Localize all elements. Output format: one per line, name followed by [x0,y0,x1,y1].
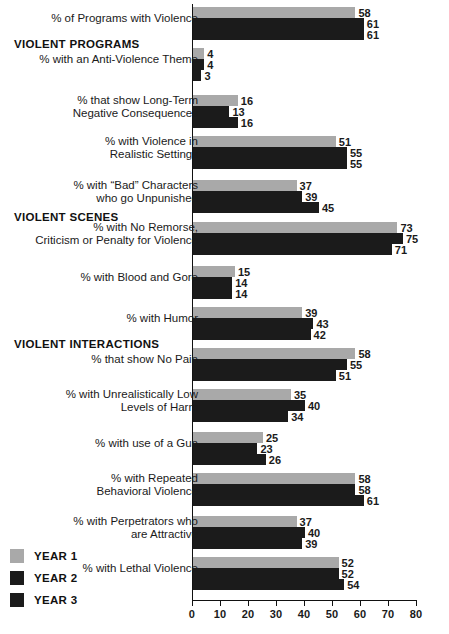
bar[interactable] [193,495,364,506]
bar[interactable] [193,158,347,169]
bar[interactable] [193,568,339,579]
bar[interactable] [193,432,263,443]
bar[interactable] [193,516,297,527]
bar[interactable] [193,117,238,128]
category-label: % with use of a Gun [95,437,198,450]
bar[interactable] [193,579,344,590]
legend-item[interactable]: YEAR 1 [10,549,77,563]
category-label: % with Repeated Behavioral Violence [97,472,198,498]
bar[interactable] [193,136,336,147]
bar[interactable] [193,233,403,244]
bar-value-label: 42 [314,330,326,341]
x-tick-label: 40 [289,608,319,620]
bar-value-label: 51 [339,371,351,382]
bar[interactable] [193,318,313,329]
bar[interactable] [193,202,319,213]
bar-value-label: 14 [235,289,247,300]
bar[interactable] [193,244,392,255]
category-label: % of Programs with Violence [51,12,198,25]
bar[interactable] [193,18,364,29]
bar[interactable] [193,454,266,465]
bar[interactable] [193,277,232,288]
bar[interactable] [193,389,291,400]
legend-swatch-icon [10,593,24,607]
category-label: % with Unrealistically Low Levels of Har… [66,388,198,414]
violence-bar-chart: 01020304050607080 5861614431613165155553… [0,0,449,634]
bar[interactable] [193,484,355,495]
bar[interactable] [193,70,201,81]
bar[interactable] [193,95,238,106]
bar-value-label: 61 [367,496,379,507]
x-tick-label: 50 [317,608,347,620]
legend-item[interactable]: YEAR 2 [10,571,77,585]
bar[interactable] [193,288,232,299]
legend-label: YEAR 3 [34,594,77,606]
x-tick-label: 60 [345,608,375,620]
category-label: % with No Remorse, Criticism or Penalty … [35,221,198,247]
bar-value-label: 39 [305,539,317,550]
bar-value-label: 34 [291,412,303,423]
bar-value-label: 71 [395,245,407,256]
bar[interactable] [193,329,311,340]
bar[interactable] [193,443,257,454]
category-label: % with Perpetrators who are Attractive [73,515,198,541]
bar[interactable] [193,359,347,370]
category-label: % with Humor [126,312,198,325]
x-tick-label: 70 [373,608,403,620]
x-tick [192,601,193,606]
legend-label: YEAR 1 [34,550,77,562]
bar-value-label: 26 [269,455,281,466]
category-label: % with “Bad” Characters who go Unpunishe… [73,179,198,205]
bar-value-label: 55 [350,159,362,170]
bar[interactable] [193,180,297,191]
legend-swatch-icon [10,549,24,563]
x-tick-label: 30 [261,608,291,620]
bar-value-label: 40 [308,401,320,412]
bar[interactable] [193,473,355,484]
category-label: % with Violence in Realistic Settings [105,135,198,161]
bar[interactable] [193,348,355,359]
bar[interactable] [193,307,302,318]
bar[interactable] [193,411,288,422]
bar[interactable] [193,222,397,233]
bar[interactable] [193,557,339,568]
bar[interactable] [193,538,302,549]
bar-value-label: 16 [241,118,253,129]
x-tick [248,601,249,606]
category-label: % with Blood and Gore [80,271,198,284]
bar-value-label: 55 [350,360,362,371]
bar-value-label: 75 [406,234,418,245]
bar[interactable] [193,370,336,381]
bar[interactable] [193,400,305,411]
legend-label: YEAR 2 [34,572,77,584]
x-tick [360,601,361,606]
bar[interactable] [193,106,229,117]
category-label: % with an Anti-Violence Theme [39,53,198,66]
category-label: % that show No Pain [91,353,198,366]
x-tick [332,601,333,606]
x-tick [220,601,221,606]
bar-value-label: 45 [322,203,334,214]
legend-item[interactable]: YEAR 3 [10,593,77,607]
x-tick-label: 20 [233,608,263,620]
bar[interactable] [193,527,305,538]
x-tick [416,601,417,606]
bar[interactable] [193,7,355,18]
x-tick [276,601,277,606]
x-tick-label: 0 [177,608,207,620]
x-tick [388,601,389,606]
bar[interactable] [193,147,347,158]
x-tick [304,601,305,606]
category-label: % that show Long-Term Negative Consequen… [73,94,198,120]
bar[interactable] [193,191,302,202]
section-heading: VIOLENT INTERACTIONS [14,338,159,350]
x-tick-label: 10 [205,608,235,620]
section-heading: VIOLENT PROGRAMS [14,38,140,50]
bar-value-label: 61 [367,30,379,41]
legend-swatch-icon [10,571,24,585]
bar-value-label: 3 [204,71,210,82]
bar-value-label: 54 [347,580,359,591]
bar[interactable] [193,29,364,40]
category-label: % with Lethal Violence [83,562,199,575]
bar[interactable] [193,266,235,277]
